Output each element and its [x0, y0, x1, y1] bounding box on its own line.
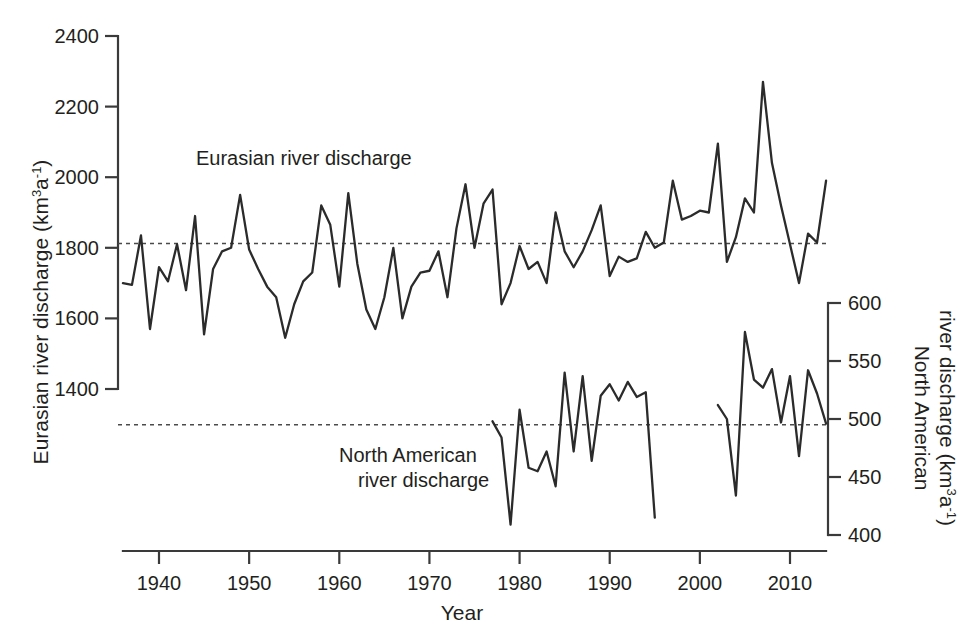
right-axis-title-end: ) — [936, 519, 959, 526]
x-axis-tick-label: 1960 — [317, 572, 362, 594]
left-axis-tick-label: 2000 — [55, 166, 100, 188]
left-axis-tick-label: 2200 — [55, 96, 100, 118]
x-axis-tick-label: 1990 — [587, 572, 632, 594]
svg-text:North American: North American — [911, 346, 934, 491]
line-chart: 140016001800200022002400 400450500550600… — [0, 0, 965, 640]
svg-text:Eurasian river discharge (km3a: Eurasian river discharge (km3a-1) — [29, 160, 52, 465]
right-axis-title-sup2: -1 — [944, 507, 959, 519]
right-axis-tick-label: 600 — [848, 292, 881, 314]
north-american-series-annotation-line1: North American — [339, 444, 477, 466]
north-american-series-annotation-line2: river discharge — [358, 469, 489, 491]
x-axis-tick-label: 1950 — [227, 572, 272, 594]
left-axis-tick-label: 2400 — [55, 25, 100, 47]
right-axis-title-mid: a — [936, 496, 959, 508]
x-axis-tick-label: 1940 — [137, 572, 182, 594]
right-axis-tick-label: 400 — [848, 524, 881, 546]
left-axis-tick-label: 1600 — [55, 307, 100, 329]
left-axis-tick-label: 1800 — [55, 237, 100, 259]
x-axis-tick-label: 2010 — [768, 572, 813, 594]
x-axis-tick-label: 2000 — [678, 572, 723, 594]
plot-background — [0, 0, 965, 640]
x-axis-tick-label: 1980 — [497, 572, 542, 594]
left-axis-title-mid: a — [29, 178, 52, 190]
left-axis-tick-label: 1400 — [55, 378, 100, 400]
left-axis-title-sup2: -1 — [29, 167, 44, 179]
right-axis-title-line1: North American — [911, 346, 934, 491]
right-axis-tick-label: 500 — [848, 408, 881, 430]
left-axis-title-main: Eurasian river discharge (km — [29, 197, 52, 464]
x-axis-tick-label: 1970 — [407, 572, 452, 594]
figure-container: 140016001800200022002400 400450500550600… — [0, 0, 965, 640]
left-axis-title-sup1: 3 — [29, 190, 44, 197]
left-axis-title-end: ) — [29, 160, 52, 167]
eurasian-series-annotation: Eurasian river discharge — [196, 147, 412, 169]
right-axis-tick-label: 450 — [848, 466, 881, 488]
x-axis-title: Year — [441, 601, 483, 624]
right-axis-tick-label: 550 — [848, 350, 881, 372]
left-axis-title: Eurasian river discharge (km3a-1) — [29, 160, 52, 465]
right-axis-title-line2: river discharge (km — [936, 310, 959, 489]
right-axis-title-sup1: 3 — [944, 489, 959, 496]
